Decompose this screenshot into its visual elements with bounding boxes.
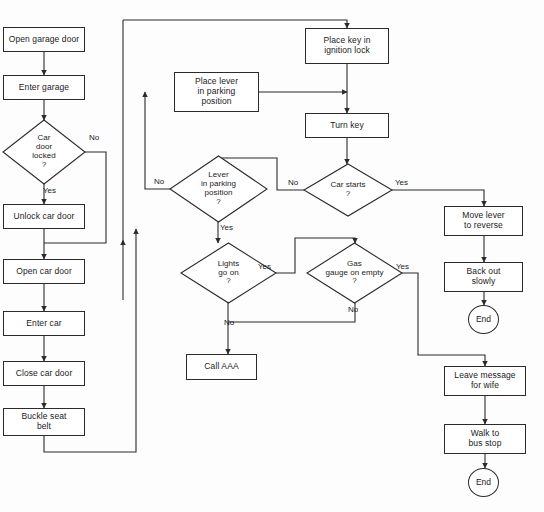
node-lever_in_parking: Lever in parking position ? [170, 156, 267, 222]
node-end_bottom: End [468, 468, 499, 497]
node-enter_car: Enter car [3, 311, 85, 336]
node-place_lever_park: Place lever in parking position [174, 72, 259, 112]
edge-label-lbl_lever_yes: Yes [220, 223, 233, 232]
flowchart-canvas: Open garage doorEnter garageCar door loc… [0, 0, 544, 512]
node-label-gas_gauge_empty: Gas gauge on empty ? [325, 260, 383, 287]
node-close_car_door: Close car door [3, 361, 85, 386]
node-label-end_bottom: End [476, 478, 491, 488]
node-gas_gauge_empty: Gas gauge on empty ? [307, 243, 402, 303]
node-label-open_car_door: Open car door [16, 267, 72, 277]
node-label-car_starts: Car starts ? [330, 181, 365, 199]
connector-c20 [228, 303, 355, 322]
node-call_aaa: Call AAA [186, 354, 257, 380]
node-label-back_out_slowly: Back out slowly [467, 267, 501, 287]
node-label-lever_in_parking: Lever in parking position ? [201, 171, 236, 207]
node-label-call_aaa: Call AAA [204, 362, 238, 372]
connector-c14 [392, 190, 484, 206]
edge-label-lbl_lights_yes: Yes [258, 262, 271, 271]
node-label-enter_car: Enter car [26, 319, 61, 329]
node-open_garage_door: Open garage door [3, 27, 85, 52]
node-label-place_key: Place key in ignition lock [323, 36, 370, 56]
node-label-lights_go_on: Lights go on ? [218, 260, 240, 287]
node-label-turn_key: Turn key [330, 121, 364, 131]
node-label-enter_garage: Enter garage [19, 83, 69, 93]
node-label-unlock_car_door: Unlock car door [13, 212, 74, 222]
node-label-open_garage_door: Open garage door [9, 35, 80, 45]
node-walk_to_bus_stop: Walk to bus stop [444, 424, 526, 454]
node-open_car_door: Open car door [3, 259, 85, 284]
node-lights_go_on: Lights go on ? [181, 243, 276, 303]
node-car_door_locked: Car door locked ? [3, 120, 85, 184]
node-label-end_top: End [476, 315, 491, 325]
edge-label-lbl_starts_yes: Yes [395, 178, 408, 187]
connector-c10 [123, 20, 347, 28]
node-unlock_car_door: Unlock car door [3, 204, 85, 229]
connector-c16 [145, 92, 170, 189]
node-label-walk_to_bus_stop: Walk to bus stop [469, 429, 502, 449]
edge-label-lbl_lights_no: No [224, 318, 234, 327]
node-label-close_car_door: Close car door [16, 369, 73, 379]
edge-label-lbl_lever_no: No [154, 177, 164, 186]
edge-label-lbl_gas_no: No [348, 305, 358, 314]
node-label-buckle_seat_belt: Buckle seat belt [21, 412, 66, 432]
node-end_top: End [468, 305, 499, 334]
edge-label-lbl_gas_yes: Yes [396, 262, 409, 271]
node-place_key: Place key in ignition lock [305, 28, 389, 64]
node-label-place_lever_park: Place lever in parking position [195, 77, 238, 106]
node-label-car_door_locked: Car door locked ? [32, 134, 55, 170]
node-label-leave_message: Leave message for wife [454, 371, 515, 391]
node-enter_garage: Enter garage [3, 75, 85, 100]
node-back_out_slowly: Back out slowly [444, 262, 523, 292]
node-label-move_lever_reverse: Move lever to reverse [462, 211, 505, 231]
node-turn_key: Turn key [305, 113, 389, 138]
node-car_starts: Car starts ? [304, 164, 392, 216]
node-move_lever_reverse: Move lever to reverse [444, 206, 523, 236]
node-buckle_seat_belt: Buckle seat belt [3, 408, 85, 436]
node-leave_message: Leave message for wife [444, 366, 526, 396]
edge-label-lbl_locked_yes: Yes [43, 186, 56, 195]
edge-label-lbl_locked_no: No [89, 133, 99, 142]
edge-label-lbl_starts_no: No [288, 178, 298, 187]
